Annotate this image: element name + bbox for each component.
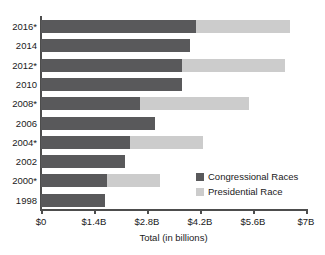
bar-segment [130, 136, 203, 149]
y-axis-label: 2002 [1, 155, 37, 168]
legend-swatch-icon [196, 173, 204, 181]
legend-label: Congressional Races [208, 171, 298, 182]
x-axis-tick-label: $5.6B [241, 216, 266, 227]
bar-row [41, 59, 306, 72]
y-axis-label: 2010 [1, 78, 37, 91]
bar-segment [107, 174, 160, 187]
legend-item: Presidential Race [196, 185, 298, 198]
bar-row [41, 155, 306, 168]
x-axis-tick [147, 209, 149, 214]
x-axis-tick-label: $4.2B [188, 216, 213, 227]
y-axis-label: 1998 [1, 194, 37, 207]
bar-segment [41, 20, 196, 33]
bar-segment [41, 117, 155, 130]
bar-segment [41, 39, 190, 52]
bar-segment [41, 155, 125, 168]
bar-segment [196, 20, 290, 33]
y-axis-label: 2012* [1, 59, 37, 72]
x-axis-tick [200, 209, 202, 214]
x-axis-tick [94, 209, 96, 214]
bar-row [41, 20, 306, 33]
x-axis-tick [306, 209, 308, 214]
x-axis-tick-label: $7B [298, 216, 315, 227]
bar-segment [41, 97, 140, 110]
y-axis-label: 2008* [1, 97, 37, 110]
bar-segment [41, 136, 130, 149]
legend-swatch-icon [196, 188, 204, 196]
bar-row [41, 117, 306, 130]
y-axis-label: 2016* [1, 20, 37, 33]
bar-row [41, 97, 306, 110]
y-axis-label: 2014 [1, 39, 37, 52]
x-axis-tick [41, 209, 43, 214]
x-axis-tick-label: $2.8B [135, 216, 160, 227]
bar-row [41, 39, 306, 52]
x-axis-tick-label: $0 [36, 216, 47, 227]
bar-chart: 2016*20142012*20102008*20062004*20022000… [0, 0, 325, 255]
y-axis-label: 2006 [1, 117, 37, 130]
bar-segment [41, 194, 105, 207]
bar-segment [41, 78, 182, 91]
x-axis-tick [253, 209, 255, 214]
y-axis-category-labels: 2016*20142012*20102008*20062004*20022000… [0, 16, 37, 210]
x-axis-title: Total (in billions) [41, 232, 306, 243]
y-axis-label: 2004* [1, 136, 37, 149]
bar-row [41, 136, 306, 149]
x-axis-tick-label: $1.4B [82, 216, 107, 227]
legend-item: Congressional Races [196, 170, 298, 183]
bar-segment [140, 97, 249, 110]
legend-label: Presidential Race [208, 186, 282, 197]
bar-segment [182, 59, 285, 72]
bar-segment [41, 174, 107, 187]
y-axis-label: 2000* [1, 174, 37, 187]
bar-segment [41, 59, 182, 72]
bar-row [41, 78, 306, 91]
chart-legend: Congressional RacesPresidential Race [196, 170, 298, 200]
